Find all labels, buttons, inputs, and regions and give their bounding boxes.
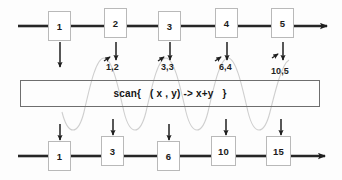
scan-dataflow-diagram: 1 2 3 4 5 1,2 3,3 6,4 10,5 scan{ ( x , y… [0, 0, 342, 180]
input-item-2[interactable]: 2 [104, 8, 127, 38]
scan-operator-expression: scan{ ( x , y) -> x+y } [113, 88, 226, 99]
scan-operator-box[interactable]: scan{ ( x , y) -> x+y } [20, 80, 320, 107]
scan-to-output-arrows [60, 119, 281, 140]
accumulator-feedback-ticks [104, 54, 278, 61]
output-item-5[interactable]: 15 [266, 136, 291, 166]
output-item-3[interactable]: 6 [157, 141, 180, 171]
output-item-2-label: 3 [110, 146, 115, 157]
output-item-4[interactable]: 10 [211, 136, 236, 166]
input-item-3[interactable]: 3 [158, 11, 181, 41]
output-item-1[interactable]: 1 [48, 141, 71, 171]
output-item-2[interactable]: 3 [101, 136, 124, 166]
accumulator-pair-3: 6,4 [219, 62, 232, 72]
input-item-5[interactable]: 5 [271, 8, 294, 38]
output-item-1-label: 1 [57, 151, 62, 162]
input-item-1[interactable]: 1 [48, 11, 71, 41]
input-item-4[interactable]: 4 [215, 8, 238, 38]
input-item-5-label: 5 [280, 18, 285, 29]
accumulator-pair-4: 10,5 [271, 66, 289, 76]
accumulator-pair-1: 1,2 [106, 62, 119, 72]
input-item-2-label: 2 [113, 18, 118, 29]
output-item-5-label: 15 [273, 146, 284, 157]
output-item-4-label: 10 [218, 146, 229, 157]
input-item-3-label: 3 [167, 21, 172, 32]
input-item-4-label: 4 [224, 18, 229, 29]
accumulator-pair-2: 3,3 [161, 62, 174, 72]
input-item-1-label: 1 [57, 21, 62, 32]
output-item-3-label: 6 [166, 151, 171, 162]
